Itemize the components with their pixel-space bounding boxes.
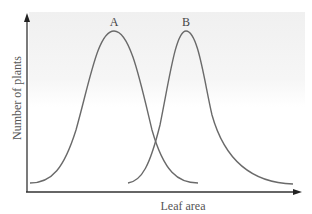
background-band [29,12,305,107]
plot-area [0,0,312,214]
curve-b-label: B [182,15,190,30]
x-axis-arrow-icon [293,189,302,195]
x-axis-label: Leaf area [161,199,206,214]
leaf-area-distribution-diagram: A B Number of plants Leaf area [0,0,312,214]
curve-a-label: A [110,15,119,30]
y-axis-label: Number of plants [10,56,25,140]
